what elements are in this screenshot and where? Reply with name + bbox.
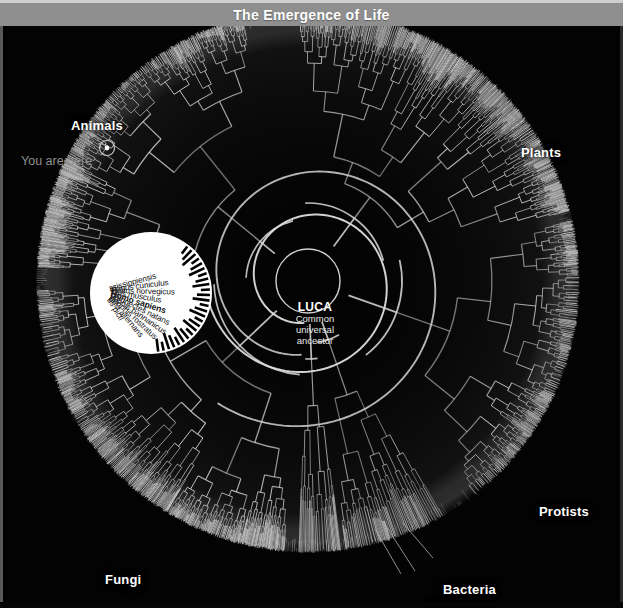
you-are-here-dot [105,146,110,151]
page-root: The Emergence of Life [0,0,623,608]
page-title: The Emergence of Life [233,7,389,23]
clade-label-fungi: Fungi [105,572,141,587]
you-are-here-annotation: You are here [21,154,92,168]
magnified-species-list: ssissippiensisolagus cuniculusRattus nor… [89,230,213,356]
title-bar: The Emergence of Life [0,3,623,26]
clade-label-protists: Protists [539,504,589,519]
tree-canvas: Animals Plants Protists Fungi Bacteria A… [3,26,620,602]
magnifier-callout: ssissippiensisolagus cuniculusRattus nor… [89,230,213,356]
clade-label-plants: Plants [521,145,561,160]
clade-label-animals: Animals [71,118,123,133]
left-edge-strip [0,26,3,602]
clade-label-archaea: Archaea [428,599,481,602]
clade-label-bacteria: Bacteria [443,582,496,597]
